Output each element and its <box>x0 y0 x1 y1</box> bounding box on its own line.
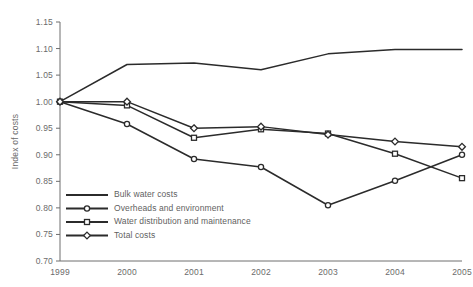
y-tick-label: 1.15 <box>36 17 53 27</box>
data-point-circle <box>325 203 330 208</box>
y-tick-label: 1.00 <box>36 97 53 107</box>
y-tick-label: 0.85 <box>36 176 53 186</box>
y-tick-label: 1.05 <box>36 70 53 80</box>
legend-item-label: Water distribution and maintenance <box>114 216 251 226</box>
y-tick-label: 0.80 <box>36 203 53 213</box>
data-point-square <box>460 176 465 181</box>
x-tick-label: 2001 <box>184 267 204 277</box>
x-tick-label: 2005 <box>452 267 472 277</box>
x-tick-label: 1999 <box>50 267 70 277</box>
data-point-circle <box>124 121 129 126</box>
data-point-square <box>393 151 398 156</box>
x-tick-label: 2003 <box>318 267 338 277</box>
x-tick-label: 2002 <box>251 267 271 277</box>
x-tick-label: 2004 <box>385 267 405 277</box>
chart-container: 0.700.750.800.850.900.951.001.051.101.15… <box>0 0 473 287</box>
y-tick-label: 0.95 <box>36 123 53 133</box>
y-tick-label: 1.10 <box>36 44 53 54</box>
data-point-square <box>192 135 197 140</box>
y-tick-label: 0.75 <box>36 229 53 239</box>
line-chart: 0.700.750.800.850.900.951.001.051.101.15… <box>0 0 473 287</box>
chart-background <box>0 0 473 287</box>
legend-item-label: Overheads and environment <box>114 203 224 213</box>
data-point-circle <box>459 152 464 157</box>
x-tick-label: 2000 <box>117 267 137 277</box>
data-point-circle <box>392 178 397 183</box>
y-axis-title: Index of costs <box>10 114 20 169</box>
data-point-circle <box>191 156 196 161</box>
y-tick-label: 0.90 <box>36 150 53 160</box>
data-point-circle <box>258 164 263 169</box>
y-tick-label: 0.70 <box>36 256 53 266</box>
legend-item-label: Bulk water costs <box>114 189 177 199</box>
data-point-circle <box>84 206 89 211</box>
data-point-square <box>85 220 90 225</box>
legend-item-label: Total costs <box>114 230 155 240</box>
